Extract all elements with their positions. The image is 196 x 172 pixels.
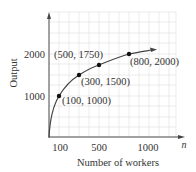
chart: (100, 1000) (300, 1500) (500, 1750) (800… xyxy=(0,0,196,172)
data-point xyxy=(57,94,61,98)
grid xyxy=(49,12,176,137)
x-tick-label: 500 xyxy=(91,142,107,153)
x-axis-title: Number of workers xyxy=(77,157,159,168)
x-axis-variable: n xyxy=(182,139,187,150)
point-label: (500, 1750) xyxy=(54,49,103,61)
y-axis-title: Output xyxy=(8,58,19,87)
x-tick-label: 100 xyxy=(52,142,68,153)
x-tick-label: 1000 xyxy=(138,142,159,153)
y-tick-label: 2000 xyxy=(24,49,45,60)
point-label: (100, 1000) xyxy=(62,95,111,107)
data-point xyxy=(97,63,101,67)
point-label: (300, 1500) xyxy=(81,76,130,88)
y-axis-arrow-icon xyxy=(47,12,51,19)
y-tick-label: 1000 xyxy=(24,91,45,102)
curve-arrow-icon xyxy=(150,48,157,53)
point-label: (800, 2000) xyxy=(130,56,179,68)
